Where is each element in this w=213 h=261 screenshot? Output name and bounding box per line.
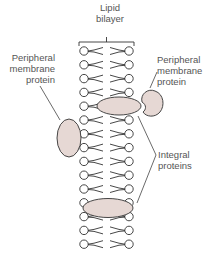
phospholipid-head — [125, 171, 133, 179]
phospholipid-tail — [110, 144, 125, 151]
phospholipid-head — [125, 226, 133, 234]
phospholipid-tail — [110, 48, 125, 55]
phospholipid-tail — [88, 61, 103, 68]
phospholipid-head — [80, 74, 88, 82]
phospholipid-tail — [88, 172, 103, 179]
integral-protein-upper — [97, 97, 141, 115]
phospholipid-tail — [88, 48, 103, 55]
phospholipid-tail — [88, 186, 103, 193]
membrane-diagram — [0, 0, 213, 261]
phospholipid-tail — [110, 75, 125, 82]
peripheral-protein-left — [57, 119, 81, 157]
phospholipid-head — [125, 47, 133, 55]
leader-line-right — [150, 72, 157, 88]
integral-protein-lower — [83, 199, 133, 218]
phospholipid-head — [125, 88, 133, 96]
phospholipid-head — [80, 143, 88, 151]
phospholipid-tail — [110, 186, 125, 193]
phospholipid-head — [125, 116, 133, 124]
phospholipid-tail — [110, 117, 125, 124]
phospholipid-tail — [88, 241, 103, 248]
phospholipid-tail — [88, 158, 103, 165]
bilayer-bracket — [79, 37, 134, 46]
phospholipid-tail — [88, 117, 103, 124]
phospholipid-head — [80, 171, 88, 179]
phospholipid-head — [80, 102, 88, 110]
phospholipid-tail — [110, 158, 125, 165]
phospholipid-head — [80, 116, 88, 124]
phospholipid-head — [125, 157, 133, 165]
lipid-rows — [80, 47, 133, 249]
phospholipid-head — [80, 226, 88, 234]
leader-line-left — [40, 86, 60, 120]
phospholipid-tail — [110, 61, 125, 68]
phospholipid-head — [80, 185, 88, 193]
phospholipid-head — [125, 61, 133, 69]
phospholipid-tail — [110, 172, 125, 179]
phospholipid-tail — [88, 227, 103, 234]
phospholipid-head — [125, 74, 133, 82]
phospholipid-head — [80, 88, 88, 96]
peripheral-protein-right — [142, 90, 163, 116]
phospholipid-head — [80, 61, 88, 69]
phospholipid-tail — [88, 130, 103, 137]
phospholipid-tail — [88, 89, 103, 96]
phospholipid-head — [125, 143, 133, 151]
leader-line-integral — [137, 116, 156, 203]
phospholipid-tail — [110, 227, 125, 234]
phospholipid-head — [125, 130, 133, 138]
phospholipid-tail — [88, 75, 103, 82]
phospholipid-tail — [110, 89, 125, 96]
phospholipid-tail — [110, 130, 125, 137]
phospholipid-head — [80, 47, 88, 55]
phospholipid-head — [80, 240, 88, 248]
phospholipid-head — [80, 157, 88, 165]
phospholipid-head — [125, 240, 133, 248]
phospholipid-tail — [88, 144, 103, 151]
phospholipid-tail — [110, 241, 125, 248]
phospholipid-head — [125, 185, 133, 193]
